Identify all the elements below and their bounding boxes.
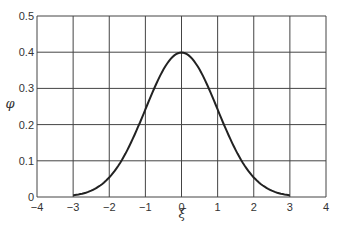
x-tick-label: −1 (139, 201, 152, 213)
x-tick-label: −2 (103, 201, 116, 213)
y-tick-label: 0.1 (19, 155, 34, 167)
grid (37, 16, 326, 197)
y-tick-label: 0.2 (19, 119, 34, 131)
x-axis-label: ξ (178, 206, 186, 221)
y-tick-label: 0.5 (19, 10, 34, 22)
y-tick-label: 0.3 (19, 82, 34, 94)
y-ticks: 00.10.20.30.40.5 (19, 10, 34, 203)
x-tick-label: −3 (67, 201, 80, 213)
chart: −4−3−2−101234 00.10.20.30.40.5 ξ φ (0, 0, 337, 231)
y-tick-label: 0.4 (19, 46, 34, 58)
y-axis-label: φ (5, 96, 15, 111)
x-tick-label: 2 (251, 201, 257, 213)
x-tick-label: 3 (287, 201, 293, 213)
x-tick-label: 1 (215, 201, 221, 213)
x-tick-label: 4 (323, 201, 329, 213)
y-tick-label: 0 (28, 191, 34, 203)
